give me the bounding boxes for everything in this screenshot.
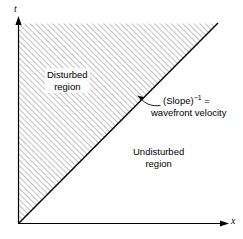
undisturbed-region-label-line1: Undisturbed bbox=[133, 146, 184, 157]
diagram-canvas bbox=[0, 0, 243, 239]
slope-annotation-prefix: (Slope) bbox=[163, 95, 194, 106]
slope-annotation-line2: wavefront velocity bbox=[151, 107, 227, 119]
disturbed-region-label: Disturbed region bbox=[45, 68, 90, 93]
x-axis-arrowhead bbox=[220, 220, 229, 226]
x-axis bbox=[18, 220, 229, 226]
t-axis-label: t bbox=[14, 4, 17, 14]
slope-annotation-suffix: = bbox=[202, 95, 210, 106]
disturbed-region-label-line2: region bbox=[54, 81, 80, 92]
t-axis-arrowhead bbox=[15, 16, 21, 25]
disturbed-region-label-line1: Disturbed bbox=[47, 69, 88, 80]
undisturbed-region-label-line2: region bbox=[145, 158, 171, 169]
slope-annotation-exponent: −1 bbox=[194, 94, 202, 101]
slope-annotation: (Slope)−1 = wavefront velocity bbox=[163, 95, 227, 118]
wavefront-diagram-figure: t x Disturbed region Undisturbed region … bbox=[0, 0, 243, 239]
undisturbed-region-label: Undisturbed region bbox=[133, 146, 184, 169]
x-axis-label: x bbox=[231, 216, 235, 226]
